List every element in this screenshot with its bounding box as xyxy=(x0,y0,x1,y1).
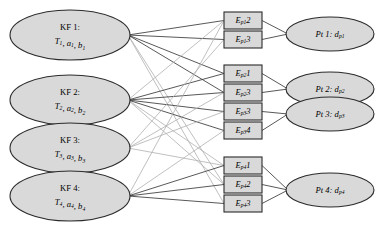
edge-ep2-1-to-pt2 xyxy=(262,74,288,90)
ep-box-ep3-3[interactable]: Ep33 xyxy=(224,103,262,120)
ep-box-ep2-1[interactable]: Ep21 xyxy=(224,65,262,82)
kf-node-4[interactable]: KF 4:T4, a4, b4 xyxy=(10,171,130,221)
kf-ellipse-shape xyxy=(10,171,130,221)
edge-ep4-2-to-pt4 xyxy=(262,185,288,191)
edge-ep1-2-to-pt1 xyxy=(262,21,288,35)
kf-title-label: KF 1: xyxy=(60,22,80,32)
kf-node-group: KF 1:T1, a1, b1KF 2:T2, a2, b2KF 3:T3, a… xyxy=(10,10,130,221)
ep-box-ep4-3[interactable]: Ep43 xyxy=(224,195,262,212)
ep-box-ep2-3[interactable]: Ep23 xyxy=(224,84,262,101)
edge-kf3-to-ep2-3 xyxy=(128,93,224,149)
edge-kf2-to-ep3-4 xyxy=(128,100,224,131)
kf-title-label: KF 3: xyxy=(60,135,80,145)
edge-ep1-3-to-pt1 xyxy=(262,34,288,40)
kf-node-2[interactable]: KF 2:T2, a2, b2 xyxy=(10,75,130,125)
ep-box-ep4-2[interactable]: Ep42 xyxy=(224,176,262,193)
kf-ellipse-shape xyxy=(10,123,130,173)
edge-ep2-3-to-pt2 xyxy=(262,89,288,93)
group-p2p3: Ep21Ep23Ep33Ep34 xyxy=(224,65,262,139)
pt-node-3[interactable]: Pt 3: dp3 xyxy=(286,97,374,131)
edge-ep4-1-to-pt4 xyxy=(262,166,288,191)
group-p4: Ep41Ep42Ep43 xyxy=(224,157,262,212)
ep-box-ep1-3[interactable]: Ep13 xyxy=(224,31,262,48)
ep-box-ep1-2[interactable]: Ep12 xyxy=(224,12,262,29)
edge-ep3-3-to-pt3 xyxy=(262,112,288,115)
kf-node-3[interactable]: KF 3:T3, a3, b3 xyxy=(10,123,130,173)
pt-node-group: Pt 1: dp1Pt 2: dp2Pt 3: dp3Pt 4: dp4 xyxy=(286,17,374,207)
edge-ep3-4-to-pt3 xyxy=(262,114,288,131)
kf-node-1[interactable]: KF 1:T1, a1, b1 xyxy=(10,10,130,60)
edge-kf4-to-ep4-3 xyxy=(128,196,224,204)
pt-node-4[interactable]: Pt 4: dp4 xyxy=(286,173,374,207)
ep-node-group: Ep12Ep13Ep21Ep23Ep33Ep34Ep41Ep42Ep43 xyxy=(224,12,262,212)
kf-title-label: KF 2: xyxy=(60,87,80,97)
kf-title-label: KF 4: xyxy=(60,183,80,193)
group-p1: Ep12Ep13 xyxy=(224,12,262,48)
kf-ellipse-shape xyxy=(10,10,130,60)
kf-ellipse-shape xyxy=(10,75,130,125)
ep-box-ep3-4[interactable]: Ep34 xyxy=(224,122,262,139)
diagram-canvas: KF 1:T1, a1, b1KF 2:T2, a2, b2KF 3:T3, a… xyxy=(0,0,376,230)
edge-kf1-to-ep2-1 xyxy=(128,35,224,74)
edge-ep4-3-to-pt4 xyxy=(262,190,288,204)
ep-to-pt-edge-group xyxy=(262,21,288,204)
edge-kf1-to-ep2-3 xyxy=(128,35,224,93)
pt-node-1[interactable]: Pt 1: dp1 xyxy=(286,17,374,51)
ep-box-ep4-1[interactable]: Ep41 xyxy=(224,157,262,174)
edge-kf1-to-ep1-3 xyxy=(128,35,224,40)
kf-to-ep-edge-group xyxy=(128,21,224,204)
